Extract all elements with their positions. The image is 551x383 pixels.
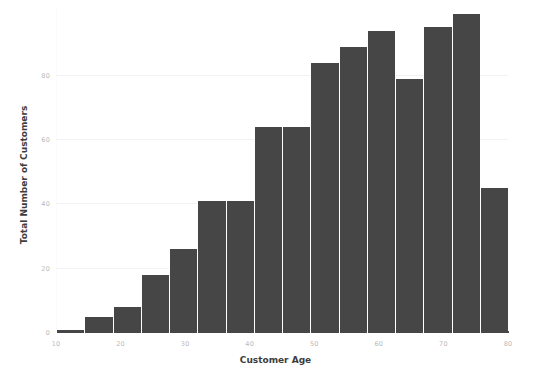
bar [310,63,338,333]
y-tick-label: 80 [6,72,50,80]
bar [339,47,367,333]
x-tick-label: 10 [52,340,61,348]
bar [452,14,480,333]
bar [423,27,451,333]
bar [395,79,423,333]
x-tick-label: 30 [181,340,190,348]
bar [141,275,169,333]
bar [254,127,282,333]
y-tick-label: 40 [6,200,50,208]
y-tick-label: 20 [6,265,50,273]
bar [169,249,197,333]
bar [480,188,508,333]
bar [282,127,310,333]
x-tick-label: 40 [245,340,254,348]
bar [84,317,112,333]
bar [367,31,395,333]
x-tick-label: 50 [310,340,319,348]
x-tick-label: 20 [116,340,125,348]
bar [226,201,254,333]
y-tick-label: 0 [6,329,50,337]
bar [113,307,141,333]
bar [56,330,84,333]
x-tick-label: 70 [439,340,448,348]
x-tick-label: 60 [375,340,384,348]
plot-area [56,8,508,333]
x-tick-label: 80 [504,340,513,348]
bar [197,201,225,333]
y-tick-label: 60 [6,136,50,144]
y-axis-tick-labels: 020406080 [0,0,50,383]
x-axis-title: Customer Age [0,355,551,365]
histogram-figure: Total Number of Customers 020406080 1020… [0,0,551,383]
